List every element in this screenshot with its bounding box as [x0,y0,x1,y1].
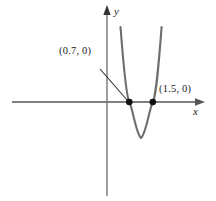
y-axis-arrow-icon [103,5,110,15]
right-root-label: (1.5, 0) [159,84,191,95]
point-left-root [126,99,133,106]
parabola-curve [121,27,162,138]
y-axis-label: y [114,6,119,17]
left-root-label: (0.7, 0) [59,46,91,57]
x-axis-label: x [193,106,198,117]
point-right-root [150,99,157,106]
coordinate-plot [0,0,216,201]
graph-figure: (0.7, 0) (1.5, 0) y x [0,0,216,201]
leader-line-left-root [100,69,128,101]
